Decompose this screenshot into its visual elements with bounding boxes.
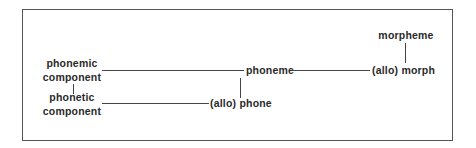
node-phoneme: phoneme [246, 64, 294, 76]
node-phonetic-component-line2: component [40, 105, 104, 117]
edge-phoneme-allophone [240, 78, 241, 98]
node-allo-phone: (allo) phone [210, 97, 272, 109]
edge-morpheme-allomorph [405, 43, 406, 63]
edge-phonetic-allophone [102, 103, 209, 104]
edge-phonemic-phoneme [102, 70, 244, 71]
node-phonetic-component-line1: phonetic [40, 91, 104, 103]
node-phonemic-component-line2: component [40, 71, 104, 83]
node-allo-morph: (allo) morph [372, 64, 435, 76]
node-morpheme: morpheme [375, 29, 437, 41]
edge-phoneme-allomorph [292, 70, 370, 71]
node-phonemic-component-line1: phonemic [40, 57, 104, 69]
